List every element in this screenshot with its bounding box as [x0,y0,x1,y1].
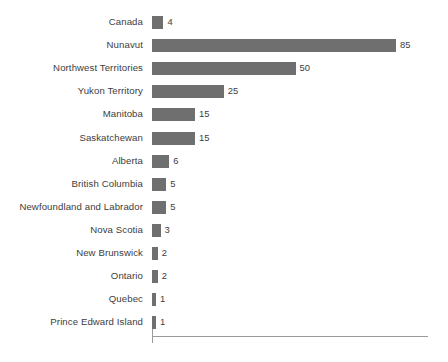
bar-row: Saskatchewan15 [0,132,448,145]
bar [152,132,195,145]
bar-row: Alberta6 [0,155,448,168]
bar-value-label: 15 [199,131,209,145]
bar-category-label: Manitoba [0,107,143,121]
bar-row: Nunavut85 [0,39,448,52]
bar [152,16,163,29]
bar-value-label: 3 [165,223,170,237]
bar-value-label: 1 [160,292,165,306]
bar-category-label: Prince Edward Island [0,315,143,329]
bar-value-label: 4 [167,15,172,29]
bar-value-label: 2 [162,269,167,283]
bar-category-label: Saskatchewan [0,131,143,145]
bar [152,201,166,214]
bar-value-label: 1 [160,315,165,329]
bar-category-label: Canada [0,15,143,29]
bar-row: New Brunswick2 [0,247,448,260]
bar-category-label: Ontario [0,269,143,283]
bar [152,270,158,283]
horizontal-bar-chart: Canada4Nunavut85Northwest Territories50Y… [0,0,448,362]
bar-value-label: 50 [300,61,310,75]
bar-row: Quebec1 [0,293,448,306]
bar-value-label: 85 [400,38,410,52]
bar-category-label: Northwest Territories [0,61,143,75]
bar-row: British Columbia5 [0,178,448,191]
bar-category-label: Yukon Territory [0,84,143,98]
bar [152,108,195,121]
bar [152,39,396,52]
bar-category-label: Nunavut [0,38,143,52]
bar-value-label: 5 [170,200,175,214]
bar [152,247,158,260]
bar-value-label: 6 [173,154,178,168]
bar-category-label: British Columbia [0,177,143,191]
bar-row: Newfoundland and Labrador5 [0,201,448,214]
bar-value-label: 5 [170,177,175,191]
bar-row: Ontario2 [0,270,448,283]
bar [152,62,296,75]
value-axis-line [152,336,428,337]
bar [152,178,166,191]
bar-category-label: Newfoundland and Labrador [0,200,143,214]
bar-row: Yukon Territory25 [0,85,448,98]
bar-row: Nova Scotia3 [0,224,448,237]
bar [152,316,156,329]
bar-row: Prince Edward Island1 [0,316,448,329]
bar [152,155,169,168]
bar [152,293,156,306]
bar-category-label: Quebec [0,292,143,306]
bar-category-label: Nova Scotia [0,223,143,237]
bar-value-label: 15 [199,107,209,121]
bar [152,85,224,98]
bar [152,224,161,237]
value-axis-zero-tick [152,329,153,343]
bar-category-label: Alberta [0,154,143,168]
bar-row: Manitoba15 [0,108,448,121]
bar-value-label: 25 [228,84,238,98]
bar-category-label: New Brunswick [0,246,143,260]
bar-value-label: 2 [162,246,167,260]
bar-row: Northwest Territories50 [0,62,448,75]
bar-row: Canada4 [0,16,448,29]
